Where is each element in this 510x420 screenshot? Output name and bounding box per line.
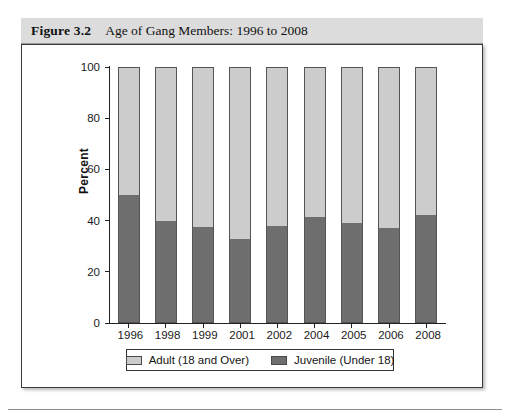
bar-segment-adult[interactable] [229,67,251,239]
x-axis-tick-label: 2008 [415,329,437,341]
y-axis-tick: 20 [87,266,110,278]
bar-segment-adult[interactable] [341,67,363,223]
chart-canvas: Percent 020406080100 1996199819992001200… [21,44,483,388]
figure-number: Figure 3.2 [31,23,91,39]
x-axis-labels: 199619981999200120022004200520062008 [110,329,445,341]
bar-column[interactable] [118,67,140,323]
chart-legend: Adult (18 and Over) Juvenile (Under 18) [126,349,394,371]
bar-column[interactable] [229,67,251,323]
x-axis-tick-mark [165,323,166,328]
bar-segment-adult[interactable] [378,67,400,228]
bar-segment-adult[interactable] [192,67,214,227]
bar-group [110,67,445,323]
x-axis-tick-mark [203,323,204,328]
x-axis-tick-label: 1999 [192,329,214,341]
x-axis-tick-label: 2006 [378,329,400,341]
y-axis-tick: 100 [81,61,110,73]
y-axis-tick: 0 [94,317,110,329]
x-axis-tick-label: 2001 [229,329,251,341]
legend-item-juvenile: Juvenile (Under 18) [271,354,394,366]
bar-segment-juvenile[interactable] [118,195,140,323]
x-axis-tick-label: 2004 [304,329,326,341]
y-axis-tick: 80 [87,112,110,124]
x-axis-tick-mark [128,323,129,328]
bar-segment-juvenile[interactable] [378,228,400,323]
bar-column[interactable] [266,67,288,323]
bar-segment-juvenile[interactable] [229,239,251,323]
x-axis-tick-mark [314,323,315,328]
bar-segment-adult[interactable] [155,67,177,221]
y-axis-tick: 40 [87,215,110,227]
y-axis-tick-label: 20 [87,266,105,278]
bar-column[interactable] [415,67,437,323]
bar-segment-adult[interactable] [304,67,326,217]
y-axis-tick: 60 [87,163,110,175]
x-axis-tick-label: 2005 [341,329,363,341]
legend-label-adult: Adult (18 and Over) [149,354,249,366]
y-axis-tick-label: 0 [94,317,105,329]
bar-column[interactable] [155,67,177,323]
x-axis-tick-mark [389,323,390,328]
x-axis-tick-mark [351,323,352,328]
bar-segment-adult[interactable] [118,67,140,195]
x-axis-tick-label: 1998 [155,329,177,341]
y-axis-tick-label: 60 [87,163,105,175]
x-axis-tick-marks [110,323,445,328]
x-axis-tick-label: 1996 [118,329,140,341]
legend-item-adult: Adult (18 and Over) [126,354,249,366]
legend-swatch-juvenile-icon [271,356,287,365]
bar-column[interactable] [341,67,363,323]
bar-segment-juvenile[interactable] [415,215,437,323]
x-axis-tick-mark [240,323,241,328]
y-axis-tick-label: 80 [87,112,105,124]
figure-title: Age of Gang Members: 1996 to 2008 [105,23,307,39]
bar-column[interactable] [304,67,326,323]
legend-swatch-adult-icon [126,356,142,365]
figure-caption-bar: Figure 3.2 Age of Gang Members: 1996 to … [21,18,483,44]
x-axis-tick-mark [426,323,427,328]
bar-segment-juvenile[interactable] [341,223,363,323]
x-axis-tick-mark [277,323,278,328]
bar-segment-juvenile[interactable] [266,226,288,323]
legend-label-juvenile: Juvenile (Under 18) [294,354,394,366]
bar-column[interactable] [192,67,214,323]
bar-segment-juvenile[interactable] [192,227,214,323]
y-axis-tick-label: 100 [81,61,105,73]
figure-container: Figure 3.2 Age of Gang Members: 1996 to … [0,0,510,420]
x-axis-tick-label: 2002 [266,329,288,341]
plot-area: 020406080100 [110,67,445,323]
bar-segment-juvenile[interactable] [304,217,326,323]
bar-column[interactable] [378,67,400,323]
figure-bottom-rule [8,409,502,410]
y-axis-tick-label: 40 [87,215,105,227]
bar-segment-adult[interactable] [266,67,288,226]
bar-segment-juvenile[interactable] [155,221,177,323]
bar-segment-adult[interactable] [415,67,437,215]
